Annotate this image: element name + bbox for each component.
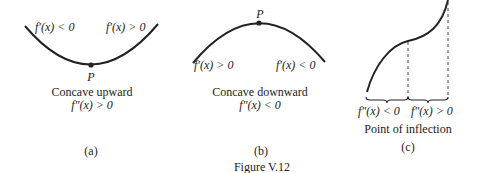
panel-c-right-second-derivative: f″(x) > 0 bbox=[411, 105, 453, 117]
panel-a-caption: Concave upward bbox=[52, 86, 133, 98]
figure-caption: Figure V.12 bbox=[234, 161, 290, 173]
panel-b-right-derivative: f′(x) < 0 bbox=[276, 59, 315, 71]
panel-a-left-derivative: f′(x) < 0 bbox=[35, 21, 74, 33]
min-point-dot bbox=[88, 62, 93, 67]
panel-a-second-derivative: f″(x) > 0 bbox=[71, 99, 113, 111]
panel-c-left-second-derivative: f″(x) < 0 bbox=[358, 105, 400, 117]
panel-b-second-derivative: f″(x) < 0 bbox=[239, 99, 281, 111]
panel-a-right-derivative: f′(x) > 0 bbox=[106, 21, 145, 33]
panel-c-label: (c) bbox=[401, 141, 414, 153]
panel-b-caption: Concave downward bbox=[212, 86, 308, 98]
max-point-dot bbox=[256, 20, 261, 25]
panel-b-point-label: P bbox=[256, 8, 263, 20]
panel-a-label: (a) bbox=[84, 145, 97, 157]
panel-b-label: (b) bbox=[254, 145, 268, 157]
left-brace bbox=[366, 97, 408, 103]
panel-b-left-derivative: f′(x) > 0 bbox=[194, 59, 233, 71]
right-brace bbox=[408, 97, 448, 103]
figure-canvas: f′(x) < 0 f′(x) > 0 P Concave upward f″(… bbox=[0, 0, 480, 173]
panel-c-caption: Point of inflection bbox=[364, 123, 451, 135]
panel-a-point-label: P bbox=[87, 71, 94, 83]
